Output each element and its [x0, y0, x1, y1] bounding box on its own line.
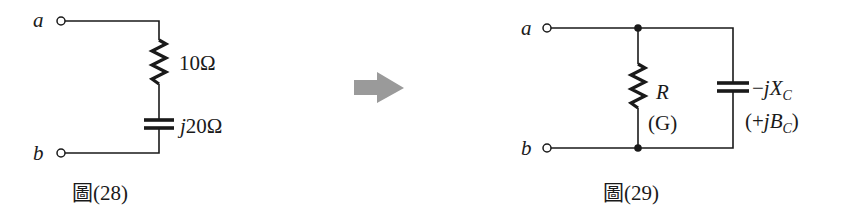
capacitor-label: j20Ω [177, 114, 222, 138]
open-paren-plus: (+ [745, 109, 764, 133]
bottom-junction-node [634, 144, 642, 152]
terminal-a-label: a [33, 8, 44, 32]
reactance-subscript: C [783, 88, 793, 103]
bottom-wire [65, 128, 159, 153]
resistor-R [631, 64, 645, 108]
bottom-wire [551, 91, 733, 148]
terminal-b-label: b [33, 141, 44, 165]
top-wire [551, 28, 733, 83]
terminal-b-label: b [521, 136, 532, 160]
capacitor-reactance-label: −jXC [752, 76, 793, 103]
capacitor-label-j: j [177, 114, 186, 138]
minus-sign: − [752, 76, 764, 100]
figure-28-series-circuit: a 10Ω j20Ω b 圖(28) [33, 8, 222, 205]
terminal-a-label: a [521, 16, 532, 40]
close-paren: ) [792, 109, 799, 133]
top-wire [65, 21, 159, 40]
resistor-10-ohm [152, 40, 166, 84]
figure-29-caption: 圖(29) [603, 181, 659, 205]
reactance-symbol: X [769, 76, 784, 100]
circuit-conversion-diagram: a 10Ω j20Ω b 圖(28) a R (G) [0, 0, 852, 220]
conductance-label: (G) [648, 111, 677, 135]
capacitor-label-value: 20Ω [186, 114, 223, 138]
terminal-b-node [543, 144, 551, 152]
figure-29-parallel-circuit: a R (G) −jXC (+jBC) b 圖(29) [521, 16, 799, 205]
terminal-b-node [57, 149, 65, 157]
susceptance-symbol: B [770, 109, 783, 133]
conversion-arrow [354, 72, 404, 103]
terminal-a-node [57, 17, 65, 25]
terminal-a-node [543, 24, 551, 32]
figure-28-caption: 圖(28) [72, 181, 128, 205]
resistor-label: R [655, 80, 669, 104]
right-arrow-icon [354, 72, 404, 103]
resistor-sublabel: (G) [648, 111, 677, 135]
capacitor-susceptance-label: (+jBC) [745, 109, 799, 136]
resistor-label: 10Ω [179, 51, 216, 75]
